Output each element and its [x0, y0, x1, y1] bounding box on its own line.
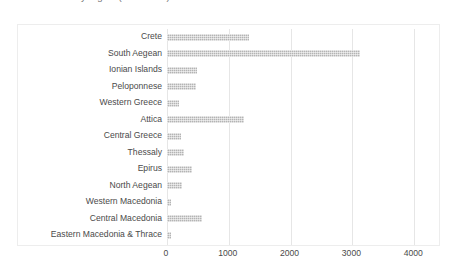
x-tick-label: 1000	[218, 248, 237, 258]
bar-western-greece	[167, 100, 179, 107]
bar-row: Central Macedonia	[18, 211, 439, 228]
bar-central-macedonia	[167, 215, 202, 222]
x-tick-label: 2000	[280, 248, 299, 258]
x-tick-label: 0	[164, 248, 169, 258]
category-label: North Aegean	[17, 180, 162, 191]
chart-title: Number of beds by region (hotel beds)	[4, 0, 170, 2]
bar-north-aegean	[167, 182, 182, 189]
bar-row: Western Macedonia	[18, 194, 439, 211]
category-label: Thessaly	[17, 147, 162, 158]
bar-thessaly	[167, 149, 184, 156]
bar-row: Western Greece	[18, 95, 439, 112]
category-label: Crete	[17, 31, 162, 42]
category-label: Attica	[17, 114, 162, 125]
bar-ionian-islands	[167, 67, 197, 74]
category-label: Central Macedonia	[17, 213, 162, 224]
x-tick-label: 4000	[404, 248, 423, 258]
bar-eastern-macedonia-thrace	[167, 232, 171, 239]
bar-row: Eastern Macedonia & Thrace	[18, 227, 439, 244]
category-label: Central Greece	[17, 130, 162, 141]
bar-epirus	[167, 166, 192, 173]
x-axis-tick-labels: 01000200030004000	[17, 248, 440, 262]
bar-crete	[167, 34, 249, 41]
category-label: Eastern Macedonia & Thrace	[17, 229, 162, 240]
bar-row: Ionian Islands	[18, 62, 439, 79]
bar-western-macedonia	[167, 199, 171, 206]
bar-row: Central Greece	[18, 128, 439, 145]
category-label: Western Greece	[17, 97, 162, 108]
bar-attica	[167, 116, 244, 123]
bar-row: Crete	[18, 29, 439, 46]
bar-row: North Aegean	[18, 178, 439, 195]
category-label: Ionian Islands	[17, 64, 162, 75]
category-label: Western Macedonia	[17, 196, 162, 207]
x-tick-label: 3000	[342, 248, 361, 258]
plot-frame: CreteSouth AegeanIonian IslandsPeloponne…	[17, 24, 440, 246]
bar-row: South Aegean	[18, 46, 439, 63]
bar-south-aegean	[167, 50, 360, 57]
category-label: South Aegean	[17, 48, 162, 59]
category-label: Epirus	[17, 163, 162, 174]
bar-row: Attica	[18, 112, 439, 129]
bar-row: Epirus	[18, 161, 439, 178]
bar-peloponnese	[167, 83, 196, 90]
bar-row: Peloponnese	[18, 79, 439, 96]
bar-central-greece	[167, 133, 181, 140]
bar-row: Thessaly	[18, 145, 439, 162]
category-label: Peloponnese	[17, 81, 162, 92]
plot-area: CreteSouth AegeanIonian IslandsPeloponne…	[18, 25, 439, 245]
